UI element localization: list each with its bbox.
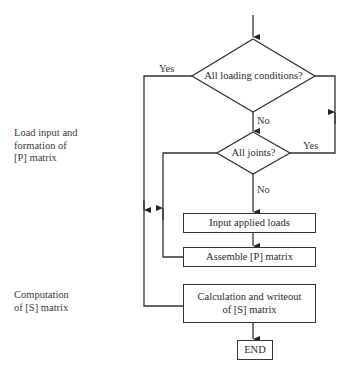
process-calculation-writeout-s-matrix: Calculation and writeout of [S] matrix xyxy=(183,284,316,323)
side-label-line: formation of xyxy=(14,140,78,153)
side-label-line: Load input and xyxy=(14,127,78,140)
decision-1-no-label: No xyxy=(257,114,270,127)
terminal-label: END xyxy=(244,344,266,357)
process-input-applied-loads: Input applied loads xyxy=(183,213,316,233)
decision-all-loading-conditions: All loading conditions? xyxy=(192,69,315,82)
decision-all-joints: All joints? xyxy=(217,146,290,159)
terminal-end: END xyxy=(237,340,273,360)
decision-2-no-label: No xyxy=(257,183,270,196)
side-label-line: of [S] matrix xyxy=(14,302,69,315)
decision-1-yes-label: Yes xyxy=(159,62,174,75)
process-label-line-2: of [S] matrix xyxy=(222,304,276,317)
process-assemble-p-matrix: Assemble [P] matrix xyxy=(183,247,316,267)
process-label: Assemble [P] matrix xyxy=(206,251,293,264)
side-label-line: Computation xyxy=(14,289,69,302)
decision-2-yes-label: Yes xyxy=(303,139,318,152)
side-label-computation: Computation of [S] matrix xyxy=(14,289,69,314)
process-label: Input applied loads xyxy=(209,217,289,230)
side-label-line: [P] matrix xyxy=(14,152,78,165)
side-label-load-input: Load input and formation of [P] matrix xyxy=(14,127,78,165)
process-label-line-1: Calculation and writeout xyxy=(198,291,302,304)
